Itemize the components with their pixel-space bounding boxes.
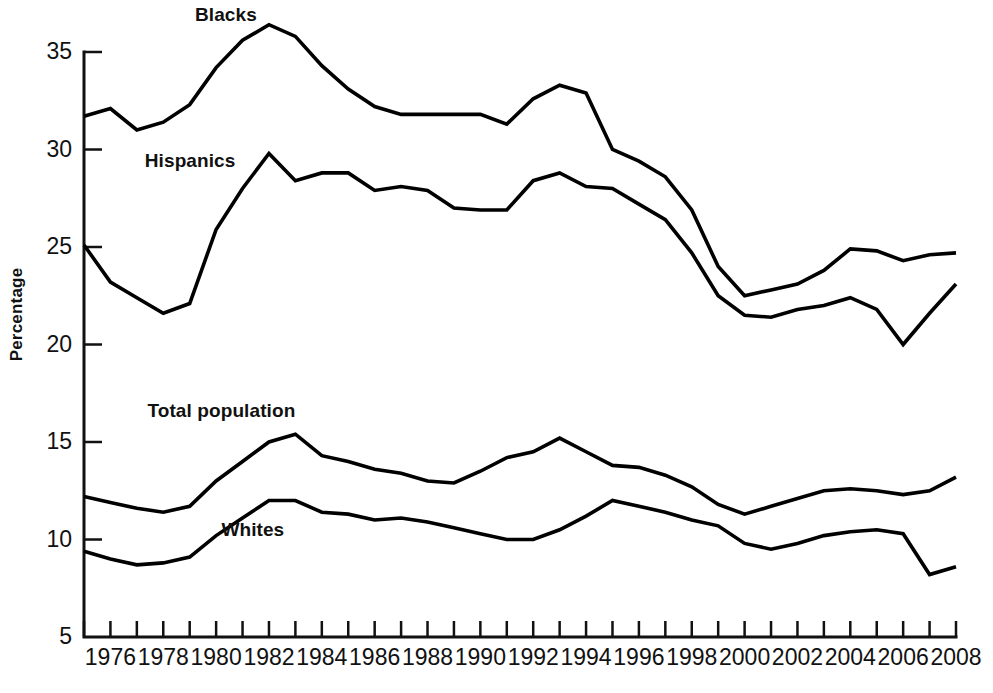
x-axis-label-2006: 2006 [878, 644, 929, 670]
x-axis-label-1984: 1984 [296, 644, 347, 670]
y-axis-label-30: 30 [46, 136, 72, 162]
x-axis-label-2002: 2002 [772, 644, 823, 670]
y-axis-label-10: 10 [46, 526, 72, 552]
x-axis-label-1988: 1988 [402, 644, 453, 670]
x-axis-label-1980: 1980 [191, 644, 242, 670]
x-axis-label-2000: 2000 [719, 644, 770, 670]
series-label-total-population: Total population [147, 400, 295, 421]
series-line-total-population [84, 434, 956, 514]
y-axis-label-20: 20 [46, 331, 72, 357]
y-axis-label-35: 35 [46, 38, 72, 64]
series-label-hispanics: Hispanics [145, 150, 236, 171]
x-axis-label-2004: 2004 [825, 644, 876, 670]
y-axis-label-15: 15 [46, 428, 72, 454]
y-axis-label-5: 5 [59, 623, 72, 649]
chart-canvas: 5101520253035197619781980198219841986198… [0, 0, 993, 693]
series-line-whites [84, 501, 956, 575]
x-axis-label-1998: 1998 [666, 644, 717, 670]
x-axis-label-1986: 1986 [349, 644, 400, 670]
y-axis-title: Percentage [7, 268, 26, 362]
y-axis-label-25: 25 [46, 233, 72, 259]
x-axis-label-1978: 1978 [138, 644, 189, 670]
series-label-blacks: Blacks [195, 4, 257, 25]
x-axis-label-1982: 1982 [243, 644, 294, 670]
chart-axes [84, 52, 956, 637]
x-axis-label-1994: 1994 [560, 644, 611, 670]
x-axis-label-1992: 1992 [508, 644, 559, 670]
poverty-rate-line-chart: 5101520253035197619781980198219841986198… [0, 0, 993, 693]
series-label-whites: Whites [221, 519, 284, 540]
series-line-hispanics [84, 153, 956, 344]
x-axis-label-1996: 1996 [613, 644, 664, 670]
x-axis-label-1990: 1990 [455, 644, 506, 670]
x-axis-label-1976: 1976 [85, 644, 136, 670]
x-axis-label-2008: 2008 [930, 644, 981, 670]
